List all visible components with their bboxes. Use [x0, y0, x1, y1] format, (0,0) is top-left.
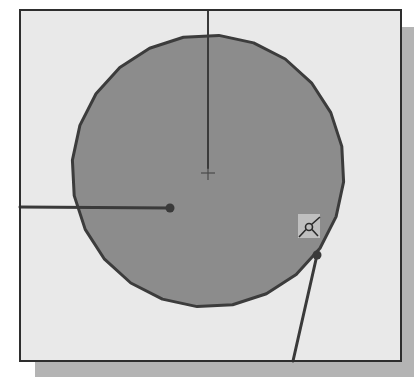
- leader-dot: [313, 251, 322, 260]
- horizontal-leader: [20, 207, 170, 208]
- cad-sketch-canvas: [0, 0, 419, 384]
- tangent-snap-icon: [298, 214, 320, 238]
- leader-dot: [166, 204, 175, 213]
